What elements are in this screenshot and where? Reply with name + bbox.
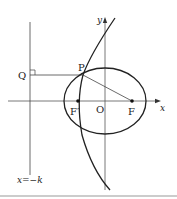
x-axis-label: x	[160, 103, 165, 113]
conic-diagram: y x O P Q F′ F x=−k	[0, 0, 177, 199]
point-q-label: Q	[18, 70, 26, 81]
focus-right-point	[130, 99, 134, 103]
segment-pf	[83, 75, 132, 101]
focus-right-label: F	[128, 106, 135, 117]
point-p-label: P	[78, 62, 85, 73]
y-axis-label: y	[96, 15, 103, 25]
right-angle-icon	[30, 70, 35, 75]
y-axis-arrow-icon	[103, 17, 107, 23]
directrix-label: x=−k	[17, 175, 43, 185]
focus-left-point	[76, 99, 80, 103]
focus-left-label: F′	[70, 106, 80, 117]
origin-label: O	[96, 104, 104, 115]
